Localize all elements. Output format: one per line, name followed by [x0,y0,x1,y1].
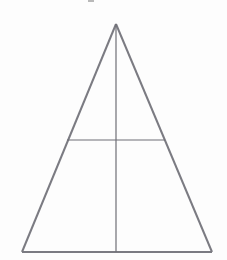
top-edge-speck [88,0,94,2]
triangle-diagram [0,0,227,260]
figure-canvas: Isosceles triangle with median and midse… [0,0,227,260]
